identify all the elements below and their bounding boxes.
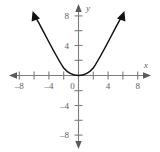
arrow-right-icon <box>143 72 151 78</box>
parabola-left-arrowhead-icon <box>32 11 40 22</box>
arrow-up-icon <box>75 4 81 12</box>
coordinate-plane-svg: –8 –4 4 8 0 8 4 –4 –8 x y <box>0 0 160 152</box>
x-label-4: 4 <box>106 81 111 91</box>
y-label-minus8: –8 <box>59 130 70 140</box>
y-label-8: 8 <box>65 11 70 21</box>
y-axis-label: y <box>85 3 90 13</box>
x-label-minus8: –8 <box>14 81 25 91</box>
origin-label: 0 <box>70 81 75 91</box>
parabola-right-arrowhead-icon <box>117 11 125 22</box>
parabola-graph-figure: –8 –4 4 8 0 8 4 –4 –8 x y <box>0 0 160 152</box>
x-label-minus4: –4 <box>43 81 54 91</box>
arrow-left-icon <box>9 72 17 78</box>
arrow-down-icon <box>75 141 81 149</box>
y-label-4: 4 <box>65 41 70 51</box>
y-label-minus4: –4 <box>59 101 70 111</box>
x-axis-label: x <box>143 60 148 70</box>
x-label-8: 8 <box>135 81 140 91</box>
